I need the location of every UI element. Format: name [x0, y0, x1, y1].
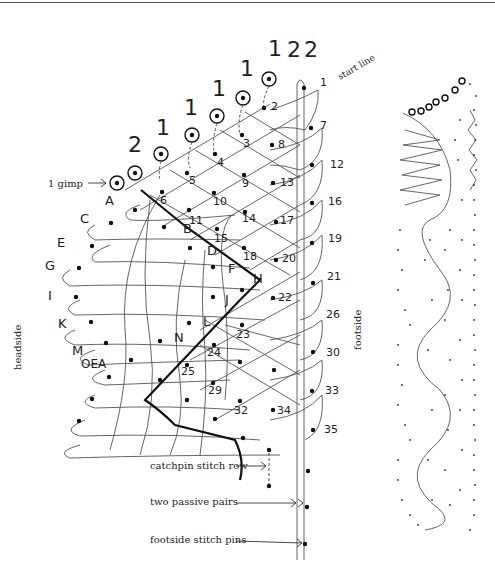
footside-pins-label: footside stitch pins	[150, 534, 246, 545]
svg-text:20: 20	[282, 252, 296, 265]
svg-text:5: 5	[189, 174, 196, 187]
svg-text:2: 2	[128, 132, 142, 157]
start-line-label: start line	[336, 52, 377, 81]
svg-text:J: J	[224, 292, 229, 307]
svg-text:13: 13	[280, 176, 294, 189]
svg-text:12: 12	[330, 158, 344, 171]
pricking-dots	[397, 83, 477, 531]
svg-text:I: I	[48, 288, 52, 303]
svg-text:21: 21	[327, 270, 341, 283]
svg-text:1: 1	[268, 36, 282, 61]
passive-label: two passive pairs	[150, 496, 238, 507]
gimp-label: 1 gimp	[48, 178, 83, 189]
svg-text:18: 18	[243, 250, 257, 263]
svg-text:C: C	[80, 211, 89, 226]
svg-text:10: 10	[213, 195, 227, 208]
gimp-arrow	[88, 179, 106, 187]
svg-text:32: 32	[234, 404, 248, 417]
svg-text:3: 3	[243, 137, 250, 150]
svg-text:25: 25	[181, 365, 195, 378]
catchpin-label: catchpin stitch row	[150, 460, 248, 471]
svg-text:E: E	[57, 235, 65, 250]
svg-text:6: 6	[160, 194, 167, 207]
svg-text:A: A	[105, 193, 114, 208]
pricking-preview	[400, 78, 477, 530]
svg-text:15: 15	[214, 232, 228, 245]
svg-text:22: 22	[278, 291, 292, 304]
headside-label: headside	[12, 325, 23, 370]
svg-text:L: L	[203, 314, 211, 329]
svg-text:26: 26	[326, 308, 340, 321]
svg-text:30: 30	[326, 346, 340, 359]
footside-label: footside	[352, 310, 363, 350]
svg-text:D: D	[207, 243, 217, 258]
svg-text:2: 2	[287, 37, 301, 62]
bottom-annotations: catchpin stitch row two passive pairs fo…	[150, 448, 310, 547]
svg-text:19: 19	[328, 232, 342, 245]
svg-text:1: 1	[212, 76, 226, 101]
svg-text:1: 1	[156, 115, 170, 140]
svg-text:23: 23	[236, 328, 250, 341]
svg-text:11: 11	[189, 214, 203, 227]
svg-text:34: 34	[277, 404, 291, 417]
svg-text:29: 29	[208, 384, 222, 397]
svg-text:4: 4	[217, 156, 224, 169]
svg-text:7: 7	[320, 119, 327, 132]
svg-text:F: F	[228, 261, 235, 276]
start-pins	[110, 72, 276, 190]
svg-text:8: 8	[278, 138, 285, 151]
svg-text:1: 1	[184, 95, 198, 120]
svg-text:17: 17	[280, 214, 294, 227]
svg-text:N: N	[174, 330, 184, 345]
svg-text:9: 9	[242, 177, 249, 190]
svg-text:1: 1	[320, 76, 327, 89]
svg-text:2: 2	[304, 37, 318, 62]
svg-text:24: 24	[207, 346, 221, 359]
headside-loops	[63, 195, 281, 458]
svg-text:1: 1	[240, 56, 254, 81]
lace-diagram: 2 1 1 1 1 1 2 2 start line	[0, 0, 495, 572]
svg-text:G: G	[45, 258, 55, 273]
svg-text:M: M	[72, 343, 83, 358]
svg-text:H: H	[253, 271, 263, 286]
svg-text:16: 16	[328, 195, 342, 208]
svg-text:35: 35	[324, 423, 338, 436]
svg-text:33: 33	[325, 384, 339, 397]
svg-text:OEA: OEA	[81, 357, 107, 371]
svg-text:K: K	[58, 316, 67, 331]
svg-text:2: 2	[271, 100, 278, 113]
svg-text:14: 14	[242, 212, 256, 225]
